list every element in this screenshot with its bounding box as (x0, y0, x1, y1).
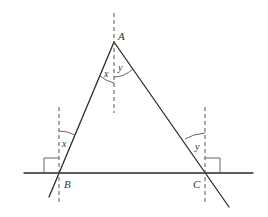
angle-arc-b (59, 131, 75, 135)
angle-arc-a-right (114, 69, 133, 77)
side-ac (114, 42, 229, 207)
angle-label-c-y: y (194, 141, 200, 152)
angle-arc-c (185, 133, 205, 139)
label-b: B (64, 178, 71, 190)
right-angle-marker-c (205, 158, 220, 173)
triangle-diagram: A B C x y x y (0, 0, 268, 217)
label-c: C (193, 178, 201, 190)
angle-label-a-y: y (117, 62, 123, 73)
label-a: A (117, 30, 125, 42)
angle-label-b-x: x (61, 138, 67, 149)
angle-label-a-x: x (103, 68, 109, 79)
right-angle-marker-b (44, 158, 59, 173)
